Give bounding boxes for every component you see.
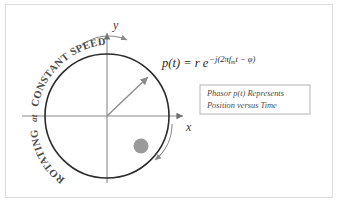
x-axis-label: x <box>185 120 192 134</box>
rotating-label-connector: at <box>29 114 39 122</box>
phasor-figure-root: ROTATING at CONSTANT SPEED y x p(t) = r … <box>0 0 339 204</box>
callout-line-1: Phasor p(t) Represents <box>206 89 284 98</box>
phasor-arrow <box>107 77 148 116</box>
y-axis-label: y <box>112 18 119 32</box>
phasor-formula-base: p(t) = r e <box>161 56 209 70</box>
rotating-label-tail: CONSTANT SPEED <box>29 36 106 108</box>
phasor-diagram: ROTATING at CONSTANT SPEED y x p(t) = r … <box>0 0 339 204</box>
phasor-formula: p(t) = r e−j(2πfmt − φ) <box>161 54 255 70</box>
callout-line-2: Position versus Time <box>206 101 277 110</box>
phasor-exponent-suffix: t − φ) <box>235 54 255 64</box>
phasor-exponent-prefix: −j(2πf <box>209 54 232 64</box>
position-dot <box>134 139 149 154</box>
